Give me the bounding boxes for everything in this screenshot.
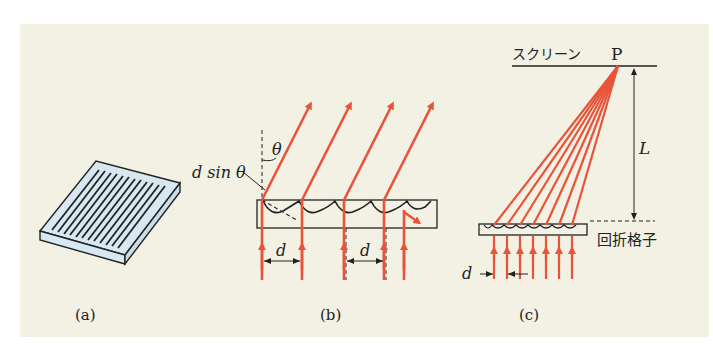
point-p-label: P: [611, 44, 622, 64]
rays-b: [262, 105, 432, 280]
screen-label: スクリーン: [512, 46, 581, 62]
diffraction-figure: (a) θ d sin θ d d (b): [0, 0, 713, 358]
caption-b: (b): [320, 306, 341, 324]
grating-label: 回折格子: [597, 231, 657, 249]
spacing-d-label-1: d: [276, 241, 286, 260]
caption-a: (a): [75, 306, 96, 324]
caption-c: (c): [519, 306, 539, 324]
distance-l-label: L: [638, 138, 650, 158]
screen-c: [512, 66, 657, 221]
theta-label: θ: [272, 140, 282, 159]
path-difference-label: d sin θ: [192, 163, 246, 182]
grating-c: [479, 224, 587, 235]
spacing-d-label-c: d: [462, 264, 472, 283]
grating-plate-a: [40, 161, 180, 264]
spacing-d-label-2: d: [360, 241, 370, 260]
